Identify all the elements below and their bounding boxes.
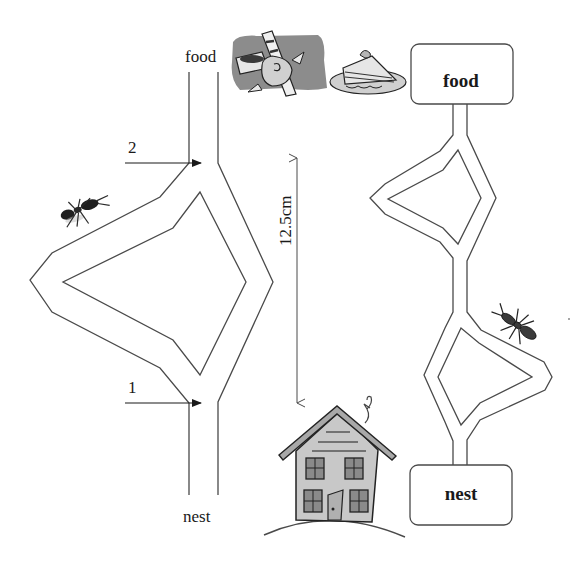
arrow-2-label: 2 (128, 138, 137, 157)
house-icon (264, 396, 405, 537)
arrow-1-label: 1 (128, 378, 137, 397)
left-nest-label: nest (183, 507, 211, 526)
left-maze-outer-left-wall (30, 72, 189, 495)
speck (568, 318, 570, 320)
right-maze: food nest (370, 44, 552, 525)
right-maze-upper-right-wall (467, 104, 552, 465)
left-maze-inner-island (63, 192, 246, 375)
scale-label: 12.5cm (276, 195, 295, 246)
left-maze: food 2 1 nest (30, 47, 273, 526)
left-food-label: food (185, 47, 217, 66)
right-food-label: food (443, 70, 479, 91)
right-nest-label: nest (445, 483, 478, 504)
scale-indicator: 12.5cm (276, 158, 297, 403)
ant-maze-diagram: food 2 1 nest (0, 0, 586, 568)
food-clipart-icon (232, 31, 406, 96)
ant-left-icon (58, 192, 114, 230)
ant-right-icon (485, 296, 545, 351)
right-maze-lower-island (438, 328, 532, 425)
right-maze-upper-island (388, 150, 481, 244)
right-maze-upper-left-wall (370, 104, 453, 465)
